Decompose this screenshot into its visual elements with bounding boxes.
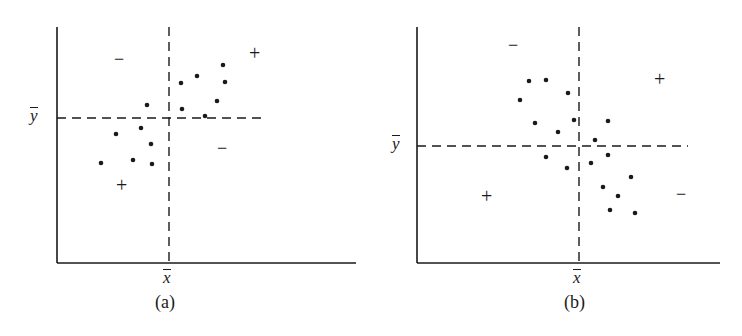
data-point (629, 175, 634, 180)
data-point (99, 161, 104, 166)
scatter-plots (0, 0, 742, 336)
data-point (223, 80, 228, 85)
data-point (139, 126, 144, 131)
data-point (145, 103, 150, 108)
data-point (150, 162, 155, 167)
data-point (533, 121, 538, 126)
data-point (556, 130, 561, 135)
data-point (606, 119, 611, 124)
panel-a-y-mean-label: y (30, 106, 38, 126)
data-point (518, 98, 523, 103)
y-bar-text: y (30, 106, 38, 126)
data-point (180, 107, 185, 112)
x-bar-text: x (573, 268, 581, 288)
data-point (203, 114, 208, 119)
data-point (565, 166, 570, 171)
panel-b-y-mean-label: y (392, 134, 400, 154)
data-point (633, 211, 638, 216)
panel-b-caption: (b) (564, 292, 585, 313)
panel-a-x-mean-label: x (163, 268, 171, 288)
panel-a-sign-upper-right: + (249, 42, 260, 65)
panel-b-sign-upper-right: + (654, 68, 665, 91)
panel-a-sign-upper-left: − (114, 49, 124, 70)
data-point (601, 185, 606, 190)
data-point (149, 142, 154, 147)
data-point (179, 81, 184, 86)
data-point (221, 63, 226, 68)
panel-b-sign-lower-right: − (676, 184, 686, 205)
data-point (114, 132, 119, 137)
data-point (606, 153, 611, 158)
data-point (572, 118, 577, 123)
panel-b-x-mean-label: x (573, 268, 581, 288)
data-point (195, 74, 200, 79)
data-point (131, 158, 136, 163)
panel-a-sign-lower-left: + (116, 174, 127, 197)
data-point (616, 194, 621, 199)
panel-b-sign-upper-left: − (508, 35, 518, 56)
data-point (593, 138, 598, 143)
data-point (544, 78, 549, 83)
x-bar-text: x (163, 268, 171, 288)
data-point (608, 208, 613, 213)
data-point (589, 161, 594, 166)
panel-b-sign-lower-left: + (481, 185, 492, 208)
panel-a-sign-lower-right: − (217, 138, 227, 159)
data-point (566, 91, 571, 96)
data-point (527, 79, 532, 84)
figure: y x (a) y x (b) − + + − − + + − (0, 0, 742, 336)
data-point (215, 99, 220, 104)
y-bar-text: y (392, 134, 400, 154)
data-point (544, 155, 549, 160)
panel-a-caption: (a) (155, 292, 175, 313)
